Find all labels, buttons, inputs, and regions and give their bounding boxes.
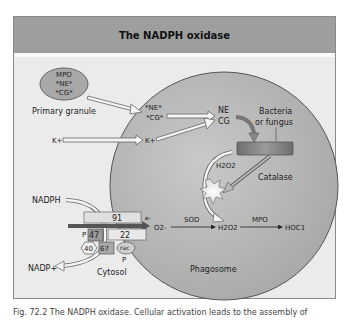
h2o2-upper-label: H2O2	[216, 162, 236, 170]
subunit-91-label: 91	[112, 214, 122, 223]
granule-cg: *CG*	[55, 89, 73, 97]
phagosome-label: Phagosome	[190, 265, 237, 274]
phospho-47-label: P	[82, 231, 86, 239]
electron-label: e-	[145, 214, 151, 221]
hocl-label: HOC1	[285, 224, 305, 232]
ne-inside-label: *NE*	[145, 104, 162, 112]
catalase-label: Catalase	[258, 173, 293, 182]
primary-granule-label: Primary granule	[32, 107, 96, 116]
subunit-40-label: 40	[84, 245, 93, 253]
cg-label: CG	[218, 117, 230, 126]
subunit-67-label: 67	[100, 245, 109, 253]
superoxide-label: O2-	[154, 224, 167, 232]
k-inside-label: K+	[145, 137, 156, 145]
subunit-47-label: 47	[89, 231, 99, 240]
rac-label: rac	[120, 244, 129, 251]
subunit-22-label: 22	[120, 231, 130, 240]
sod-label: SOD	[184, 216, 199, 224]
phospho-rac-label: P	[122, 256, 126, 264]
granule-mpo: MPO	[56, 71, 72, 79]
mpo-label: MPO	[252, 216, 268, 224]
nadph-diagram: MPO *NE* *CG* Primary granule *NE* *CG* …	[0, 0, 351, 321]
bacteria-shape	[237, 142, 293, 155]
h2o2-lower-label: H2O2	[218, 224, 238, 232]
fungus-label: or fungus	[255, 118, 293, 127]
granule-ne: *NE*	[56, 80, 73, 88]
bacteria-label: Bacteria	[259, 107, 292, 116]
ne-label: NE	[218, 106, 229, 115]
figure-caption: Fig. 72.2 The NADPH oxidase. Cellular ac…	[13, 308, 307, 317]
nadph-label: NADPH	[32, 196, 60, 205]
k-outside-label: K+	[52, 137, 63, 145]
nadp-label: NADP+	[28, 264, 57, 273]
cytosol-label: Cytosol	[97, 268, 127, 277]
cg-inside-label: *CG*	[146, 114, 164, 122]
